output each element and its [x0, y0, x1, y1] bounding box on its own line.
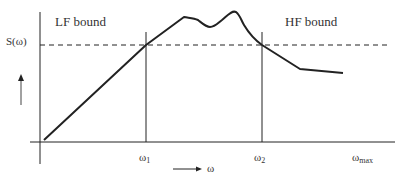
y-axis-label: S(ω) [6, 36, 27, 47]
y-arrow-head-icon [18, 74, 24, 81]
spectrum-curve [44, 12, 343, 140]
lf-bound-label: LF bound [55, 15, 106, 28]
tick-omega-max-sub: max [359, 156, 373, 165]
tick-omega1-sub: 1 [146, 156, 150, 165]
x-arrow-head-icon [196, 167, 202, 172]
tick-omega1: ω1 [139, 152, 150, 165]
tick-omega-max: ωmax [352, 152, 373, 165]
hf-bound-label: HF bound [285, 15, 337, 28]
tick-omega2-sub: 2 [261, 156, 265, 165]
x-axis-label: ω [207, 163, 214, 174]
tick-omega2: ω2 [254, 152, 265, 165]
